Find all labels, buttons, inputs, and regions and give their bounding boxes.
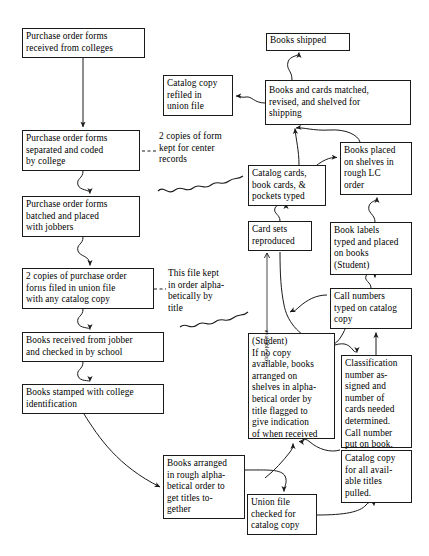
- node-po-two-copies[interactable]: 2 copies of purchase order forııs filed …: [22, 268, 154, 309]
- node-books-received[interactable]: Books received from jobber and checked i…: [22, 332, 164, 362]
- node-po-batched[interactable]: Purchase order forms batched and placed …: [22, 196, 140, 237]
- arrow-to-callnumbers-left: [290, 295, 327, 312]
- label-available-copy: available copy: [264, 330, 270, 364]
- arrow-callnumbers-to-labels: [366, 273, 375, 288]
- node-book-labels[interactable]: Book labels typed and placed on books (S…: [330, 222, 412, 275]
- arrow-twocopies-to-booksreceived: [78, 309, 90, 330]
- node-books-shipped[interactable]: Books shipped: [266, 33, 350, 51]
- arrow-stamped-to-arranged: [84, 414, 160, 487]
- node-call-numbers[interactable]: Call numbers typed on catalog copy: [330, 288, 412, 329]
- arrow-unionfile-to-pulled: [317, 502, 374, 515]
- node-po-separated[interactable]: Purchase order forms separated and coded…: [22, 130, 140, 171]
- arrow-batched-to-twocopies: [78, 237, 90, 266]
- node-po-received[interactable]: Purchase order forms received from colle…: [22, 28, 145, 58]
- arrow-pulled-to-student: [299, 439, 340, 451]
- arrow-cards-to-matched: [295, 129, 299, 166]
- arrow-labels-to-placed: [369, 198, 377, 223]
- arrow-student-to-classification: [335, 344, 357, 353]
- node-union-file-check[interactable]: Union file checked for catalog copy: [247, 494, 317, 535]
- node-classification[interactable]: Classification number as- signed and num…: [341, 355, 412, 448]
- node-books-matched[interactable]: Books and cards matched, revised, and sh…: [265, 80, 411, 125]
- node-books-arranged[interactable]: Books arranged in rough alpha- betical o…: [163, 455, 245, 519]
- arrow-booksreceived-to-stamped: [78, 362, 90, 382]
- node-catalog-pulled[interactable]: Catalog copy for all avail- able titles …: [341, 450, 412, 503]
- node-books-stamped[interactable]: Books stamped with college identificatio…: [22, 384, 164, 414]
- arrow-up-to-student: [265, 444, 293, 479]
- arrow-separated-to-batched: [78, 171, 90, 194]
- arrow-matched-to-shipped: [288, 53, 299, 81]
- annotation-file-order: This file kept in order alpha- betically…: [168, 268, 224, 314]
- node-card-sets[interactable]: Card sets reproduced: [248, 221, 312, 251]
- arrow-placed-to-matched: [296, 128, 360, 142]
- arrow-cardsets-to-cards: [275, 204, 286, 222]
- arrow-matched-to-refiled: [236, 96, 265, 103]
- flowchart-canvas: Purchase order forms received from colle…: [0, 0, 429, 556]
- node-books-placed[interactable]: Books placed on shelves in rough LC orde…: [340, 142, 412, 195]
- annotation-center-records: 2 copies of form kept for center records: [159, 131, 222, 166]
- squiggle-center-records: [158, 176, 243, 192]
- node-student-no-copy[interactable]: (Student) If no copy available, books ar…: [248, 333, 335, 439]
- node-catalog-refiled[interactable]: Catalog copy refiled in union file: [163, 75, 233, 116]
- node-catalog-cards[interactable]: Catalog cards, book cards, & pockets typ…: [248, 165, 326, 206]
- arrow-arranged-to-unionfile: [245, 470, 286, 492]
